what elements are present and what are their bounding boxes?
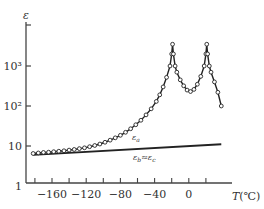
data-point-marker [213,80,217,84]
y-ticks: 11010²10³ [4,25,31,193]
x-tick-label: 0 [185,188,192,201]
data-point-marker [119,133,123,137]
x-tick-label: −40 [143,188,166,201]
data-point-marker [139,118,143,122]
data-point-marker [103,140,107,144]
data-point-marker [154,100,158,104]
data-point-marker [83,146,87,150]
data-point-marker [149,107,153,111]
x-axis-label: T(℃) [232,190,260,203]
series-ea-line [31,42,223,155]
data-point-marker [192,88,196,92]
data-point-marker [195,82,199,86]
data-point-marker [158,93,162,97]
data-point-marker [172,52,176,56]
curve-label-ea: εa [132,133,140,143]
data-point-marker [144,113,148,117]
data-point-marker [134,123,138,127]
data-point-marker [77,147,81,151]
x-tick-label: −120 [71,188,101,201]
data-point-marker [67,148,71,152]
ea-curve [33,44,221,153]
data-point-marker [62,149,66,153]
data-point-marker [175,70,179,74]
data-point-marker [199,74,203,78]
data-point-marker [178,78,182,82]
curve-label-eb-ec: εb≈εc [133,153,156,163]
x-tick-label: −160 [37,188,67,201]
data-point-marker [161,85,165,89]
x-ticks: −160−120−80−400 [35,178,206,201]
y-tick-label: 10 [8,140,22,153]
data-point-marker [219,104,223,108]
data-point-marker [57,149,61,153]
data-point-marker [36,151,40,155]
data-point-marker [129,127,133,131]
x-tick-label: −80 [109,188,132,201]
data-point-marker [88,145,92,149]
series-eb-ec-line [33,144,221,155]
data-point-marker [165,75,169,79]
data-point-marker [47,150,51,154]
data-point-marker [173,64,177,68]
data-point-marker [171,42,175,46]
data-point-marker [124,130,128,134]
y-tick-label: 10² [4,100,22,113]
data-point-marker [42,151,46,155]
y-tick-label: 10³ [4,60,22,73]
data-point-marker [93,144,97,148]
data-point-marker [207,64,211,68]
data-point-marker [216,90,220,94]
data-point-marker [108,138,112,142]
y-axis-label: ε [23,9,29,22]
data-point-marker [209,70,213,74]
y-tick-label: 1 [15,180,22,193]
data-point-marker [168,64,172,68]
data-point-marker [182,84,186,88]
eb-ec-line [33,144,221,155]
data-point-marker [206,52,210,56]
axes [26,22,232,183]
data-point-marker [202,64,206,68]
data-point-marker [31,152,35,156]
data-point-marker [52,150,56,154]
data-point-marker [205,42,209,46]
dielectric-constant-chart: 11010²10³ −160−120−80−400 ε T(℃) εa εb≈ε… [0,0,264,209]
data-point-marker [98,142,102,146]
data-point-marker [72,148,76,152]
data-point-marker [113,136,117,140]
